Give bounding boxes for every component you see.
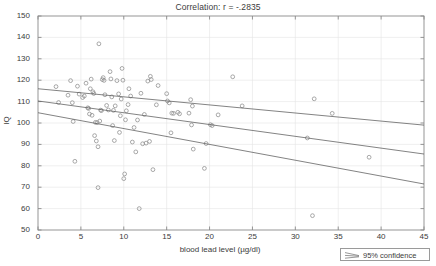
data-point: [367, 155, 371, 159]
data-point: [311, 214, 315, 218]
data-point: [191, 104, 195, 108]
data-point: [119, 97, 123, 101]
data-point: [106, 108, 110, 112]
data-point: [118, 131, 122, 135]
data-point: [240, 104, 244, 108]
data-point: [94, 139, 98, 143]
data-point: [132, 126, 136, 130]
data-point: [330, 111, 334, 115]
fit-line-upper-confidence: [38, 89, 424, 125]
data-point: [69, 79, 73, 83]
data-point: [127, 87, 131, 91]
data-point: [120, 67, 124, 71]
data-point: [84, 81, 88, 85]
data-point: [96, 145, 100, 149]
data-point: [124, 109, 128, 113]
fit-line-lower-confidence: [38, 113, 424, 184]
data-point: [136, 118, 140, 122]
data-point: [231, 75, 235, 79]
data-point: [169, 131, 173, 135]
legend: 95% confidence: [340, 248, 430, 261]
data-point: [154, 103, 158, 107]
data-point: [216, 113, 220, 117]
data-point: [112, 139, 116, 143]
data-point: [96, 186, 100, 190]
data-point: [113, 104, 117, 108]
data-point: [115, 79, 119, 83]
data-point: [66, 93, 70, 97]
data-point: [148, 140, 152, 144]
data-point: [118, 114, 122, 118]
chart-figure: Correlation: r = -.2835 IQ blood lead le…: [0, 0, 436, 266]
data-point: [190, 123, 194, 127]
plot-area: [0, 0, 436, 266]
data-point: [126, 103, 130, 107]
data-point: [124, 118, 128, 122]
data-point: [76, 84, 80, 88]
data-point: [156, 84, 160, 88]
data-point: [151, 168, 155, 172]
data-point: [108, 70, 112, 74]
data-point: [117, 92, 121, 96]
data-point: [130, 140, 134, 144]
data-point: [187, 111, 191, 115]
data-point: [189, 98, 193, 102]
legend-label: 95% confidence: [363, 250, 416, 261]
data-point: [93, 134, 97, 138]
confidence-line-icon: [344, 251, 361, 260]
data-point: [203, 166, 207, 170]
data-point: [97, 42, 101, 46]
data-point: [139, 91, 143, 95]
data-point: [54, 85, 58, 89]
data-point: [73, 159, 77, 163]
data-point: [123, 172, 127, 176]
data-point: [105, 104, 109, 108]
data-point: [312, 97, 316, 101]
data-point: [191, 147, 195, 151]
data-point: [134, 150, 138, 154]
